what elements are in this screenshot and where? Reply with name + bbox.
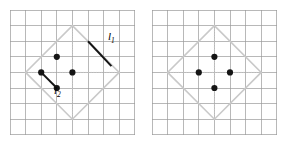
right-grid-panel (152, 10, 277, 135)
label-l2-label: l2 (54, 85, 61, 99)
figure-canvas (0, 0, 290, 147)
label-l1-label: l1 (108, 31, 115, 45)
lattice-dot (196, 69, 202, 75)
lattice-dot (54, 54, 60, 60)
two-panel-lattice-figure: l1l2 (0, 0, 290, 147)
lattice-dot (211, 54, 217, 60)
label-subscript: 2 (57, 90, 61, 99)
lattice-dot (211, 85, 217, 91)
lattice-dot (69, 69, 75, 75)
left-grid-panel (10, 10, 135, 135)
label-subscript: 1 (111, 36, 115, 45)
lattice-dot (38, 69, 44, 75)
lattice-dot (227, 69, 233, 75)
segment-l1 (88, 41, 111, 66)
